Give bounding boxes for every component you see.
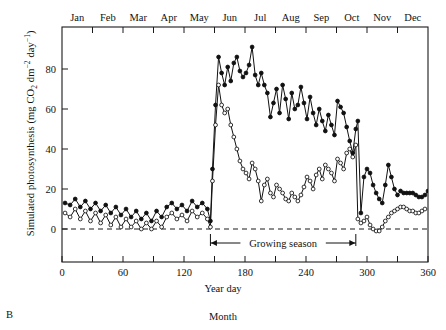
data-point-open <box>160 225 164 229</box>
data-point-filled <box>281 83 285 87</box>
data-point-open <box>290 191 294 195</box>
data-point-filled <box>390 175 394 179</box>
data-point-filled <box>345 125 349 129</box>
data-point-open <box>339 161 343 165</box>
data-point-filled <box>94 201 98 205</box>
month-label-dec: Dec <box>404 12 421 23</box>
x-tick-label-300: 300 <box>359 267 375 278</box>
data-point-filled <box>326 113 330 117</box>
data-point-open <box>354 143 358 147</box>
month-label-nov: Nov <box>373 12 392 23</box>
data-point-filled <box>272 101 276 105</box>
data-point-open <box>317 167 321 171</box>
data-point-filled <box>293 107 297 111</box>
x-axis-title: Year day <box>0 283 446 294</box>
data-point-filled <box>314 123 318 127</box>
y-axis-title: Simulated photosynthesis (mg CO2 dm−2 da… <box>23 18 40 248</box>
data-point-open <box>165 215 169 219</box>
data-point-filled <box>180 203 184 207</box>
series-layer <box>63 0 430 233</box>
data-point-open <box>262 183 266 187</box>
data-point-filled <box>190 199 194 203</box>
data-point-filled <box>423 193 427 197</box>
data-point-filled <box>359 211 363 215</box>
growing-season-label: Growing season <box>249 238 318 249</box>
data-point-filled <box>185 209 189 213</box>
data-point-filled <box>278 111 282 115</box>
data-point-open <box>253 167 257 171</box>
data-point-filled <box>377 197 381 201</box>
data-point-filled <box>195 205 199 209</box>
growing-season-arrow-right <box>349 240 355 246</box>
data-point-open <box>275 183 279 187</box>
data-point-open <box>256 179 260 183</box>
data-point-filled <box>330 123 334 127</box>
data-point-filled <box>165 205 169 209</box>
data-point-filled <box>211 167 215 171</box>
data-point-open <box>214 123 218 127</box>
data-point-filled <box>386 163 390 167</box>
data-point-open <box>272 195 276 199</box>
data-point-filled <box>235 55 239 59</box>
data-point-filled <box>253 73 257 77</box>
data-point-filled <box>220 71 224 75</box>
data-point-open <box>278 187 282 191</box>
month-label-feb: Feb <box>100 12 116 23</box>
month-label-jun: Jun <box>222 12 237 23</box>
data-point-open <box>129 225 133 229</box>
panel-label: B <box>6 309 13 320</box>
data-point-filled <box>226 65 230 69</box>
data-point-filled <box>238 69 242 73</box>
data-point-filled <box>175 207 179 211</box>
data-point-open <box>244 171 248 175</box>
data-point-filled <box>374 191 378 195</box>
data-point-open <box>99 221 103 225</box>
data-point-open <box>269 191 273 195</box>
data-point-filled <box>269 115 273 119</box>
data-point-filled <box>63 201 67 205</box>
data-point-open <box>259 199 263 203</box>
data-point-filled <box>124 207 128 211</box>
data-point-open <box>296 199 300 203</box>
data-point-open <box>223 111 227 115</box>
month-label-oct: Oct <box>344 12 359 23</box>
data-point-filled <box>336 99 340 103</box>
data-point-filled <box>229 79 233 83</box>
data-point-open <box>336 157 340 161</box>
data-point-open <box>73 207 77 211</box>
data-point-filled <box>333 133 337 137</box>
data-point-open <box>200 211 204 215</box>
data-point-open <box>265 177 269 181</box>
data-point-filled <box>383 183 387 187</box>
data-point-open <box>139 227 143 231</box>
data-point-open <box>314 173 318 177</box>
data-point-filled <box>259 71 263 75</box>
data-point-open <box>362 219 366 223</box>
data-point-open <box>326 167 330 171</box>
data-point-open <box>323 163 327 167</box>
data-point-filled <box>305 117 309 121</box>
data-point-open <box>293 195 297 199</box>
data-point-filled <box>250 45 254 49</box>
data-point-open <box>351 155 355 159</box>
data-point-open <box>356 217 360 221</box>
data-point-filled <box>104 203 108 207</box>
data-point-open <box>63 211 67 215</box>
data-point-filled <box>265 91 269 95</box>
data-point-filled <box>356 119 360 123</box>
data-point-open <box>68 215 72 219</box>
data-point-open <box>211 179 215 183</box>
data-point-open <box>250 161 254 165</box>
data-point-filled <box>89 207 93 211</box>
data-point-open <box>320 177 324 181</box>
photosynthesis-chart: JanFebMarAprMayJunJulAugSepOctNovDec0601… <box>0 0 446 330</box>
data-point-filled <box>299 85 303 89</box>
data-point-open <box>155 219 159 223</box>
y-tick-label-80: 80 <box>46 64 57 75</box>
x-tick-label-180: 180 <box>237 267 253 278</box>
data-point-filled <box>129 215 133 219</box>
data-point-open <box>383 219 387 223</box>
data-point-filled <box>371 183 375 187</box>
x-tick-label-120: 120 <box>176 267 192 278</box>
data-point-filled <box>217 55 221 59</box>
